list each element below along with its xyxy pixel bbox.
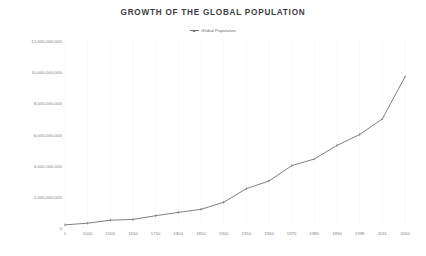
y-axis: 12,000,000,00010,000,000,0008,000,000,00… [0,0,62,256]
x-axis-tick-label: 1990 [332,231,342,236]
legend-item-global-population: Global Population [190,28,236,33]
chart-legend: Global Population [0,28,426,33]
x-axis: 1100015001650175018041850190019501960197… [0,231,426,245]
x-axis-tick-label: 1 [64,231,66,236]
x-axis-tick-label: 1999 [355,231,365,236]
x-axis-tick-label: 1950 [242,231,252,236]
x-axis-tick-label: 1804 [174,231,184,236]
x-axis-tick-label: 1960 [264,231,274,236]
x-axis-tick-label: 1900 [219,231,229,236]
x-axis-tick-label: 1750 [151,231,161,236]
legend-line-marker-icon [190,30,199,31]
data-point-markers [65,76,405,227]
x-axis-tick-label: 2011 [378,231,387,236]
plot-area [65,41,405,228]
y-axis-tick-label: 0 [2,226,62,231]
x-axis-tick-label: 1000 [83,231,93,236]
chart-container: GROWTH OF THE GLOBAL POPULATION Global P… [0,0,426,256]
x-axis-tick-label: 1975 [287,231,297,236]
y-axis-tick-label: 8,000,000,000 [2,101,62,106]
data-series-line [65,77,405,225]
gridlines [65,37,405,228]
y-axis-tick-label: 12,000,000,000 [2,39,62,44]
chart-title: GROWTH OF THE GLOBAL POPULATION [0,8,426,17]
x-axis-tick-label: 2050 [400,231,410,236]
y-axis-tick-label: 2,000,000,000 [2,194,62,199]
y-axis-tick-label: 6,000,000,000 [2,132,62,137]
x-axis-tick-label: 1650 [128,231,138,236]
x-axis-tick-label: 1500 [106,231,116,236]
x-axis-tick-label: 1850 [196,231,206,236]
y-axis-tick-label: 10,000,000,000 [2,70,62,75]
legend-item-label: Global Population [201,28,236,33]
x-axis-tick-label: 1980 [310,231,320,236]
y-axis-tick-label: 4,000,000,000 [2,163,62,168]
chart-plot-svg [65,41,405,228]
